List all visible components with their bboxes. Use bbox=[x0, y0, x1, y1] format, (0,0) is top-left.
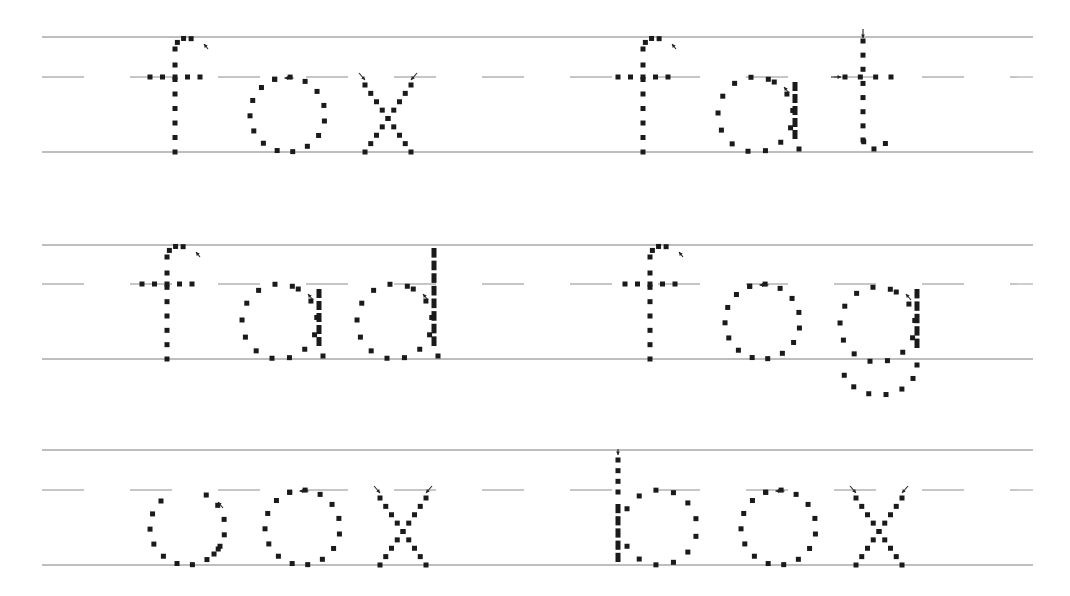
writing-row-3 bbox=[42, 449, 1033, 568]
dotted-letter-t bbox=[831, 29, 894, 151]
tracing-word-cox[interactable] bbox=[148, 486, 432, 568]
dotted-letter-x bbox=[374, 486, 432, 568]
dotted-letter-a bbox=[716, 75, 802, 154]
dotted-letter-d bbox=[355, 248, 441, 361]
tracing-worksheet: Letter f tracing practice foxfatfadfogco… bbox=[0, 0, 1070, 596]
dotted-letter-f bbox=[140, 244, 201, 362]
worksheet-canvas bbox=[0, 0, 1070, 596]
dotted-letter-o bbox=[723, 282, 802, 362]
dotted-letter-f bbox=[148, 36, 209, 155]
dotted-letter-x bbox=[850, 486, 908, 568]
tracing-word-fog[interactable] bbox=[623, 244, 920, 397]
tracing-word-fat[interactable] bbox=[616, 29, 894, 155]
tracing-word-fox[interactable] bbox=[148, 36, 418, 155]
dotted-letter-b bbox=[616, 449, 699, 567]
writing-row-1 bbox=[42, 29, 1033, 155]
dotted-letter-a bbox=[240, 282, 326, 361]
dotted-letter-f bbox=[616, 36, 677, 155]
dotted-letter-g bbox=[838, 285, 920, 397]
dotted-letter-c bbox=[148, 493, 227, 568]
writing-row-2 bbox=[42, 244, 1033, 397]
tracing-word-fad[interactable] bbox=[140, 244, 441, 362]
dotted-letter-o bbox=[248, 75, 327, 155]
dotted-letter-o bbox=[739, 488, 818, 568]
dotted-letter-f bbox=[623, 244, 684, 362]
tracing-word-box[interactable] bbox=[616, 449, 909, 568]
dotted-letter-x bbox=[359, 73, 417, 155]
dotted-letter-o bbox=[263, 488, 342, 568]
